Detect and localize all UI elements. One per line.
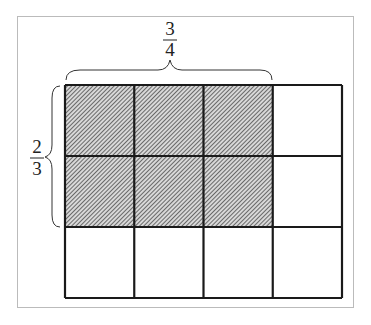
unshaded-cell bbox=[273, 85, 342, 156]
shaded-cell bbox=[65, 156, 134, 227]
unshaded-cell bbox=[204, 227, 273, 298]
left-fraction-denominator: 3 bbox=[32, 158, 42, 179]
shaded-cell bbox=[65, 85, 134, 156]
unshaded-cell bbox=[134, 227, 203, 298]
top-brace bbox=[66, 60, 272, 80]
shaded-cell bbox=[134, 156, 203, 227]
left-brace bbox=[45, 86, 60, 227]
top-fraction-denominator: 4 bbox=[165, 39, 175, 60]
unshaded-cell bbox=[273, 156, 342, 227]
unshaded-cell bbox=[273, 227, 342, 298]
shaded-cell bbox=[134, 85, 203, 156]
top-fraction-numerator: 3 bbox=[165, 18, 175, 39]
shaded-cell bbox=[204, 156, 273, 227]
shaded-cell bbox=[204, 85, 273, 156]
unshaded-cell bbox=[65, 227, 134, 298]
left-fraction-numerator: 2 bbox=[32, 136, 42, 157]
fraction-diagram: 3 4 2 3 bbox=[0, 0, 371, 325]
